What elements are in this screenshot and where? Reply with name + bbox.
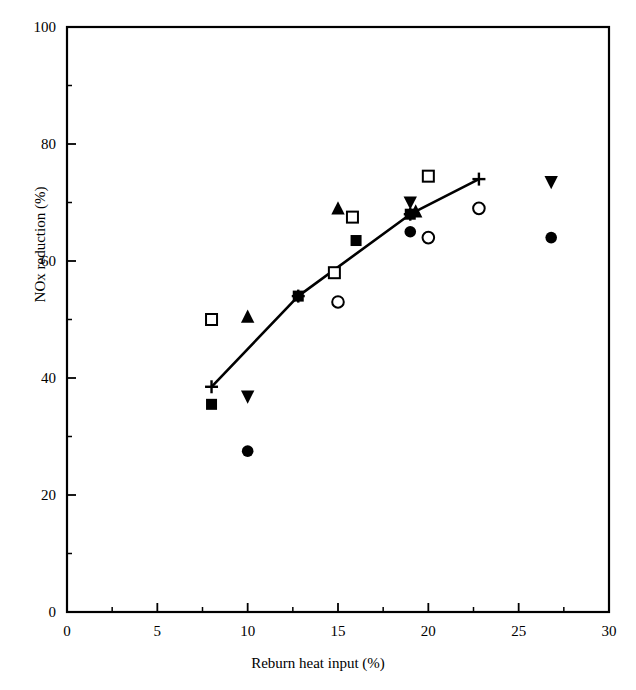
marker-open-square <box>347 212 358 223</box>
series-line-plus-line <box>212 179 479 387</box>
marker-filled-triangle-down <box>544 176 557 189</box>
marker-open-circle <box>473 203 485 215</box>
marker-filled-circle <box>404 226 416 238</box>
x-tick-label: 10 <box>240 623 255 639</box>
marker-open-square <box>206 314 217 325</box>
marker-filled-triangle-up <box>331 201 344 214</box>
series-filled-circle <box>242 226 557 457</box>
x-tick-label: 0 <box>63 623 71 639</box>
y-axis-label: NOx reduction (%) <box>32 165 49 325</box>
series-filled-triangle-down <box>241 176 558 404</box>
marker-filled-triangle-up <box>241 309 254 322</box>
chart-figure: 051015202530020406080100 NOx reduction (… <box>0 0 636 690</box>
y-tick-label: 40 <box>41 370 56 386</box>
y-tick-label: 80 <box>41 136 56 152</box>
marker-open-circle <box>423 232 435 244</box>
marker-filled-square <box>293 291 304 302</box>
y-tick-label: 0 <box>49 604 57 620</box>
marker-filled-circle <box>545 232 557 244</box>
marker-open-square <box>329 267 340 278</box>
series-plus-line <box>205 173 485 394</box>
marker-filled-square <box>351 235 362 246</box>
x-tick-label: 30 <box>602 623 617 639</box>
marker-open-circle <box>332 296 344 308</box>
plot-area: 051015202530020406080100 <box>0 0 636 690</box>
y-tick-label: 20 <box>41 487 56 503</box>
series-filled-triangle-up <box>241 201 422 322</box>
series-open-square <box>206 171 434 325</box>
x-tick-label: 5 <box>154 623 162 639</box>
marker-filled-circle <box>242 445 254 457</box>
marker-filled-square <box>206 399 217 410</box>
plot-frame <box>67 27 609 612</box>
marker-open-square <box>423 171 434 182</box>
x-tick-label: 25 <box>511 623 526 639</box>
x-tick-label: 20 <box>421 623 436 639</box>
x-axis-label: Reburn heat input (%) <box>0 655 636 672</box>
marker-filled-triangle-down <box>241 391 254 404</box>
series-filled-square <box>206 209 416 410</box>
y-tick-label: 100 <box>34 19 57 35</box>
marker-plus <box>472 173 485 186</box>
x-tick-label: 15 <box>331 623 346 639</box>
